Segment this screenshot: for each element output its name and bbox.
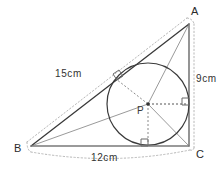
incenter-point [146, 102, 150, 106]
dimension-corner-b [27, 142, 31, 152]
vertex-label-c: C [196, 148, 204, 160]
dimension-label-bc: 12cm [91, 152, 118, 163]
side-ab [31, 24, 189, 146]
dimension-line-ab [27, 18, 187, 142]
triangle-abc [31, 24, 189, 146]
incenter-label: P [137, 105, 144, 116]
geometry-figure: A B C P 15cm 9cm 12cm [0, 0, 223, 169]
radius-to-ab [116, 79, 148, 104]
dimension-corner-c [190, 148, 194, 150]
incircle-radii [116, 79, 189, 146]
vertex-label-a: A [191, 5, 199, 17]
dimension-label-ab: 15cm [55, 68, 82, 79]
geometry-canvas: A B C P 15cm 9cm 12cm [0, 0, 223, 169]
segment-pb [31, 104, 148, 146]
dimension-label-ac: 9cm [196, 73, 217, 84]
dimension-corner-a [187, 18, 194, 24]
vertex-label-b: B [14, 142, 21, 154]
